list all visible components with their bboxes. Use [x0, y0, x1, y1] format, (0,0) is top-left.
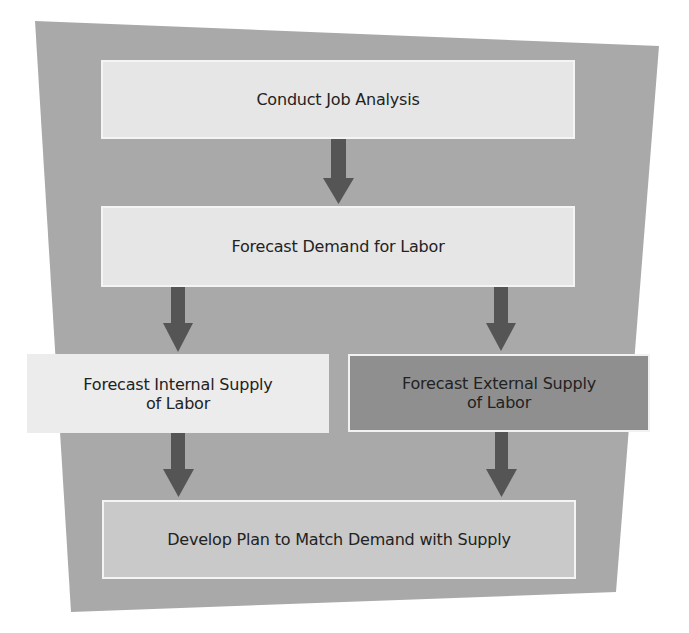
node-label: Forecast Internal Supply of Labor	[83, 375, 272, 413]
node-label: Develop Plan to Match Demand with Supply	[167, 530, 511, 549]
node-develop-plan: Develop Plan to Match Demand with Supply	[102, 500, 576, 579]
node-forecast-external-supply: Forecast External Supply of Labor	[348, 354, 650, 432]
node-label: Forecast Demand for Labor	[231, 237, 444, 256]
node-forecast-demand: Forecast Demand for Labor	[101, 206, 575, 287]
node-label: Conduct Job Analysis	[256, 90, 419, 109]
node-label: Forecast External Supply of Labor	[402, 374, 596, 412]
node-conduct-job-analysis: Conduct Job Analysis	[101, 60, 575, 139]
node-forecast-internal-supply: Forecast Internal Supply of Labor	[27, 354, 329, 433]
